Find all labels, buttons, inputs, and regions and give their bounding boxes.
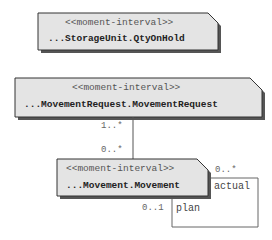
movement-request-stereotype: <<moment-interval>> [72,82,180,93]
movement-stereotype: <<moment-interval>> [66,163,174,174]
role-plan: plan [176,203,200,214]
multiplicity-actual: 0..* [215,165,237,175]
uml-diagram: <<moment-interval>> ...StorageUnit.QtyOn… [0,0,272,240]
movement-request-class-name: ...MovementRequest.MovementRequest [24,99,218,110]
multiplicity-request-end: 1..* [101,121,123,131]
storage-unit-class-name: ...StorageUnit.QtyOnHold [48,33,185,44]
multiplicity-plan: 0..1 [142,203,164,213]
storage-unit-stereotype: <<moment-interval>> [65,17,173,28]
role-actual: actual [214,181,250,192]
multiplicity-movement-end: 0..* [101,145,123,155]
movement-class-name: ...Movement.Movement [66,180,180,191]
